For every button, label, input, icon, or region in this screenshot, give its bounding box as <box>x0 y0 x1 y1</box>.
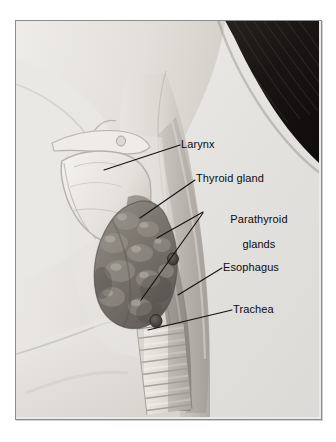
label-thyroid-gland: Thyroid gland <box>196 172 264 185</box>
parathyroid-gland-inferior <box>150 315 162 328</box>
label-parathyroid-line1: Parathyroid <box>230 213 287 225</box>
label-esophagus: Esophagus <box>223 261 279 274</box>
label-parathyroid-line2: glands <box>242 238 275 250</box>
label-trachea: Trachea <box>233 303 274 316</box>
illustration-plate: Larynx Thyroid gland Parathyroid glands … <box>16 21 321 419</box>
illustration-frame: Larynx Thyroid gland Parathyroid glands … <box>15 20 322 420</box>
figure-page: Larynx Thyroid gland Parathyroid glands … <box>0 0 336 442</box>
label-parathyroid-glands: Parathyroid glands <box>205 200 288 263</box>
label-larynx: Larynx <box>181 138 215 151</box>
